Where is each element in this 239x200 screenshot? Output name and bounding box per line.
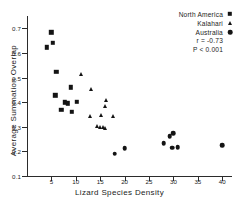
legend-entry[interactable]: Australia — [179, 28, 233, 36]
y-tick-mark — [22, 151, 27, 152]
data-point-circle — [170, 145, 175, 150]
square-marker-icon — [227, 11, 233, 17]
x-tick-label: 40 — [219, 178, 226, 185]
x-axis-spine — [27, 176, 232, 177]
data-point-triangle — [103, 126, 107, 130]
data-point-circle — [176, 145, 181, 150]
x-axis-title: Lizard Species Density — [0, 188, 239, 197]
data-point-triangle — [79, 72, 83, 76]
y-tick-mark — [22, 127, 27, 128]
y-tick-mark — [22, 176, 27, 177]
y-tick-mark — [22, 28, 27, 29]
legend-entry[interactable]: Kalahari — [179, 19, 233, 27]
scatter-chart-figure: 0.10.20.30.40.50.60.7 510152025303540 Av… — [0, 0, 239, 200]
data-point-triangle — [111, 114, 115, 118]
data-point-square — [70, 109, 74, 113]
data-point-circle — [122, 146, 127, 151]
triangle-marker-icon — [227, 20, 233, 26]
data-point-square — [54, 70, 58, 74]
x-tick-label: 35 — [194, 178, 201, 185]
y-tick-label: 0.7 — [12, 25, 21, 32]
data-point-square — [44, 45, 48, 49]
data-point-square — [49, 30, 53, 34]
legend-stat-annotation: r = -0.73 — [179, 37, 233, 45]
data-point-square — [59, 107, 63, 111]
x-tick-label: 15 — [97, 178, 104, 185]
data-point-triangle — [103, 104, 107, 108]
data-point-square — [66, 101, 70, 105]
y-tick-mark — [22, 53, 27, 54]
legend-entry[interactable]: North America — [179, 10, 233, 18]
legend-label: Kalahari — [197, 20, 223, 27]
legend-label: Australia — [196, 29, 223, 36]
x-tick-label: 20 — [121, 178, 128, 185]
y-tick-label: 0.1 — [12, 173, 21, 180]
data-point-square — [51, 40, 55, 44]
data-point-square — [53, 93, 57, 97]
data-point-circle — [220, 143, 225, 148]
data-point-triangle — [88, 114, 92, 118]
legend-label: North America — [179, 11, 223, 18]
circle-marker-icon — [227, 29, 233, 35]
data-point-square — [69, 85, 73, 89]
data-point-triangle — [89, 87, 93, 91]
y-axis-spine — [27, 16, 28, 176]
y-tick-mark — [22, 78, 27, 79]
x-tick-label: 10 — [72, 178, 79, 185]
data-point-triangle — [104, 98, 108, 102]
x-tick-label: 5 — [50, 178, 53, 185]
chart-legend: North AmericaKalahariAustraliar = -0.73P… — [179, 10, 233, 55]
data-point-square — [75, 100, 79, 104]
y-tick-mark — [22, 102, 27, 103]
x-tick-label: 30 — [170, 178, 177, 185]
data-point-circle — [113, 151, 118, 156]
data-point-circle — [161, 141, 166, 146]
y-axis-title: Average Summation Overlap — [9, 41, 18, 161]
data-point-circle — [171, 131, 176, 136]
data-point-triangle — [99, 113, 103, 117]
x-tick-label: 25 — [146, 178, 153, 185]
legend-stat-annotation: P < 0.001 — [179, 46, 233, 54]
